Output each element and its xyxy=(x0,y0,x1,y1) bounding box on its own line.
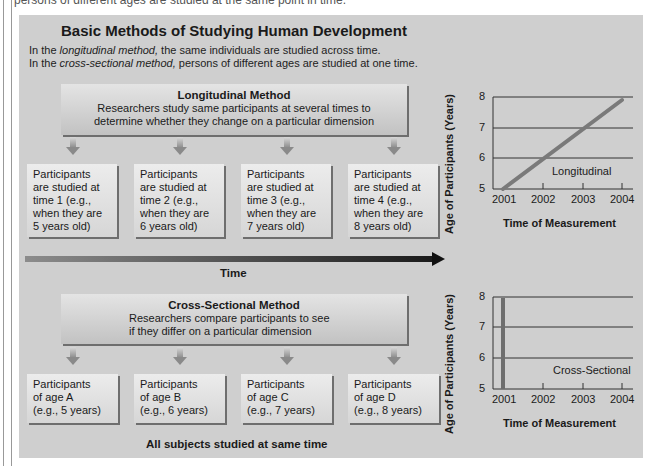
time-label: Time xyxy=(220,267,247,279)
cross-sectional-method-title: Cross-Sectional Method xyxy=(61,299,407,312)
chart1-ytick: 6 xyxy=(479,151,485,163)
cross-sectional-footer: All subjects studied at same time xyxy=(146,438,328,450)
cross-sectional-age-a-box: Participantsof age A(e.g., 5 years) xyxy=(27,374,118,423)
figure-title: Basic Methods of Studying Human Developm… xyxy=(61,22,407,39)
page-border-line xyxy=(3,0,4,466)
time-arrow-head-icon xyxy=(432,252,445,266)
chart1-ytick: 7 xyxy=(479,121,485,133)
chart1-ytick: 8 xyxy=(479,90,485,102)
chart2-ytick: 5 xyxy=(479,382,485,394)
cut-off-caption: persons of different ages are studied at… xyxy=(14,0,346,7)
page-border-line xyxy=(11,0,12,466)
cross-sectional-method-box: Cross-Sectional Method Researchers compa… xyxy=(61,294,407,344)
chart1-ytick: 5 xyxy=(479,182,485,194)
cross-sectional-method-desc-1: Researchers compare participants to see xyxy=(61,312,407,325)
chart2-ytick: 7 xyxy=(479,320,485,332)
cross-sectional-method-desc-2: if they differ on a particular dimension xyxy=(61,325,407,338)
longitudinal-method-title: Longitudinal Method xyxy=(61,89,407,102)
chart1-annotation: Longitudinal xyxy=(552,165,611,177)
chart2-x-axis-label: Time of Measurement xyxy=(503,417,616,429)
cross-sectional-age-d-box: Participantsof age D(e.g., 8 years) xyxy=(348,374,439,423)
chart2-annotation: Cross-Sectional xyxy=(553,364,631,376)
chart1-xtick: 2002 xyxy=(531,193,555,205)
cross-sectional-age-c-box: Participantsof age C(e.g., 7 years) xyxy=(241,374,332,423)
chart2-xtick: 2004 xyxy=(610,393,634,405)
longitudinal-time-2-box: Participantsare studied attime 2 (e.g.,w… xyxy=(134,164,224,237)
longitudinal-chart xyxy=(470,90,640,200)
chart1-xtick: 2001 xyxy=(492,193,516,205)
chart2-xtick: 2001 xyxy=(492,393,516,405)
chart2-ytick: 8 xyxy=(479,290,485,302)
chart1-xtick: 2004 xyxy=(610,193,634,205)
longitudinal-time-1-box: Participantsare studied attime 1 (e.g.,w… xyxy=(27,164,117,237)
chart2-y-axis-label: Age of Participants (Years) xyxy=(443,294,455,434)
intro-line-cross-sectional: In the cross-sectional method, persons o… xyxy=(29,57,418,69)
longitudinal-method-desc-1: Researchers study same participants at s… xyxy=(61,102,407,115)
chart1-xtick: 2003 xyxy=(571,193,595,205)
longitudinal-time-4-box: Participantsare studied attime 4 (e.g.,w… xyxy=(348,164,438,237)
cross-sectional-age-b-box: Participantsof age B(e.g., 6 years) xyxy=(134,374,225,423)
chart1-y-axis-label: Age of Participants (Years) xyxy=(443,94,455,234)
longitudinal-method-desc-2: determine whether they change on a parti… xyxy=(61,115,407,128)
intro-line-longitudinal: In the longitudinal method, the same ind… xyxy=(29,44,381,56)
chart2-xtick: 2003 xyxy=(571,393,595,405)
chart2-ytick: 6 xyxy=(479,351,485,363)
longitudinal-method-box: Longitudinal Method Researchers study sa… xyxy=(61,84,407,135)
chart2-xtick: 2002 xyxy=(531,393,555,405)
longitudinal-time-3-box: Participantsare studied attime 3 (e.g.,w… xyxy=(241,164,331,237)
cross-sectional-chart xyxy=(470,290,640,400)
time-arrow-bar xyxy=(25,256,435,262)
chart1-x-axis-label: Time of Measurement xyxy=(503,217,616,229)
